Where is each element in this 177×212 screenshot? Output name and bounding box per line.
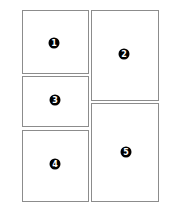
number-badge-icon: 4 <box>50 159 61 170</box>
number-badge-icon: 1 <box>49 38 60 49</box>
number-badge-icon: 5 <box>121 147 132 158</box>
number-badge-icon: 3 <box>50 95 61 106</box>
number-badge-icon: 2 <box>119 49 130 60</box>
